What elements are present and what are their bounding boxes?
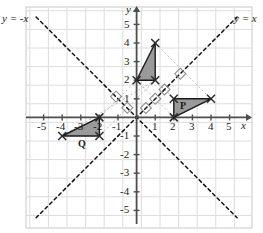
x-tick-label--5: -5 (37, 121, 46, 132)
x-tick-label--2: -2 (93, 121, 102, 132)
y-tick-label-2: 2 (124, 74, 130, 85)
figure-canvas: y = -x y = x x y -5 -4 -3 -2 -1 1 2 3 4 … (0, 0, 263, 233)
label-line-y-equals-minus-x: y = -x (2, 13, 28, 24)
x-tick-label-3: 3 (189, 121, 195, 132)
y-tick-label-5: 5 (124, 19, 130, 30)
x-tick-label-1: 1 (152, 121, 158, 132)
y-tick-label-1: 1 (124, 93, 130, 104)
x-tick-label--4: -4 (56, 121, 65, 132)
shape-label-q: Q (78, 139, 86, 149)
y-tick-label-3: 3 (124, 56, 130, 67)
x-tick-label-2: 2 (170, 121, 176, 132)
x-tick-label-4: 4 (208, 121, 214, 132)
y-axis-label: y (126, 4, 131, 15)
y-tick-label--1: -1 (120, 130, 129, 141)
y-tick-label--3: -3 (120, 167, 129, 178)
shape-label-p: P (180, 101, 186, 111)
x-tick-label-5: 5 (226, 121, 232, 132)
y-tick-label--4: -4 (120, 186, 129, 197)
y-tick-label--5: -5 (120, 204, 129, 215)
label-line-y-equals-x: y = x (234, 13, 257, 24)
coordinate-plane-svg (0, 0, 263, 233)
y-tick-label-4: 4 (124, 37, 130, 48)
x-tick-label--3: -3 (74, 121, 83, 132)
y-tick-label--2: -2 (120, 149, 129, 160)
x-axis-label: x (241, 120, 246, 131)
